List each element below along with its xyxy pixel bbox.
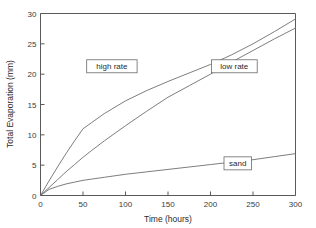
y-axis-title: Total Evaporation (mm)	[5, 60, 15, 148]
annotation-label: low rate	[220, 62, 249, 71]
series-line-low-rate	[41, 28, 296, 195]
axis-frame-path	[41, 14, 296, 196]
y-tick-label: 5	[32, 161, 37, 170]
x-axis-title: Time (hours)	[144, 214, 192, 224]
y-tick-label: 10	[28, 131, 37, 140]
y-tick-label: 30	[28, 10, 37, 19]
annotation-sand: sand	[224, 157, 251, 170]
y-tick-label: 0	[32, 192, 37, 201]
x-axis-ticks: 050100150200250300	[38, 192, 302, 209]
x-tick-label: 0	[38, 200, 43, 209]
x-tick-label: 100	[119, 200, 133, 209]
x-tick-label: 300	[289, 200, 303, 209]
annotation-low-rate: low rate	[211, 60, 257, 73]
y-tick-label: 15	[28, 101, 37, 110]
y-axis-ticks: 051015202530	[28, 10, 45, 201]
x-tick-label: 50	[79, 200, 88, 209]
series-line-sand	[41, 154, 296, 196]
series-group	[41, 19, 296, 196]
chart-page: 051015202530 050100150200250300 high rat…	[0, 0, 316, 228]
y-tick-label: 25	[28, 40, 37, 49]
plot-frame	[41, 14, 296, 196]
annotation-high-rate: high rate	[87, 60, 137, 73]
x-tick-label: 200	[204, 200, 218, 209]
x-tick-label: 150	[161, 200, 175, 209]
x-tick-label: 250	[246, 200, 260, 209]
evaporation-line-chart: 051015202530 050100150200250300 high rat…	[0, 0, 316, 228]
annotation-label: high rate	[96, 62, 128, 71]
annotation-group: high ratelow ratesand	[87, 60, 257, 170]
y-tick-label: 20	[28, 70, 37, 79]
annotation-label: sand	[229, 159, 246, 168]
